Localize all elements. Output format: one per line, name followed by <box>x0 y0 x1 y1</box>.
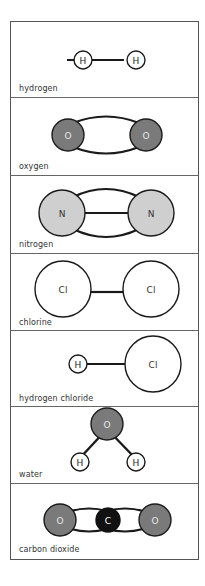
atom-symbol: N <box>148 209 155 219</box>
molecules-diagram: H H hydrogen O O oxygen N N nitrogen <box>10 21 199 560</box>
molecule-label: hydrogen chloride <box>19 394 93 403</box>
molecule-label: carbon dioxide <box>19 545 79 554</box>
atom-symbol: Cl <box>149 360 158 370</box>
molecule-label: nitrogen <box>19 240 53 249</box>
double-bond-upper <box>73 117 139 124</box>
panel-hydrogen-chloride: H Cl hydrogen chloride <box>11 331 198 407</box>
atom-symbol: H <box>75 360 82 370</box>
atom-symbol: N <box>59 209 66 219</box>
molecule-label: water <box>19 470 42 479</box>
panel-water: O H H water <box>11 407 198 484</box>
molecule-label: hydrogen <box>19 84 58 93</box>
atom-symbol: O <box>151 516 158 526</box>
molecule-label: chlorine <box>19 318 52 327</box>
panel-carbon-dioxide: O C O carbon dioxide <box>11 484 198 559</box>
atom-symbol: H <box>133 458 140 468</box>
atom-symbol: Cl <box>59 285 68 295</box>
triple-bond-lower <box>73 229 139 237</box>
atom-symbol: H <box>133 56 140 66</box>
panel-hydrogen: H H hydrogen <box>11 22 198 98</box>
atom-symbol: O <box>103 420 110 430</box>
atom-symbol: O <box>64 131 71 141</box>
panel-oxygen: O O oxygen <box>11 98 198 176</box>
atom-symbol: Cl <box>147 285 156 295</box>
double-bond-lower <box>73 147 139 154</box>
panel-nitrogen: N N nitrogen <box>11 176 198 254</box>
atom-symbol: H <box>77 458 84 468</box>
triple-bond-upper <box>73 189 139 197</box>
atom-symbol: O <box>142 131 149 141</box>
panel-chlorine: Cl Cl chlorine <box>11 254 198 331</box>
atom-symbol: H <box>80 56 87 66</box>
atom-symbol: C <box>105 516 111 526</box>
atom-symbol: O <box>56 516 63 526</box>
molecule-label: oxygen <box>19 162 49 171</box>
